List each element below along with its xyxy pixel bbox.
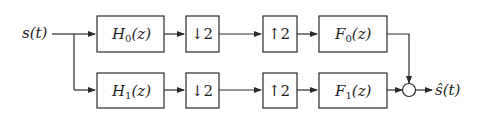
summing-junction-icon (403, 84, 416, 97)
f0-label: F0(z) (334, 25, 372, 44)
input-label: s(t) (22, 24, 48, 42)
upsampler-1-label: ↑2 (268, 82, 290, 100)
f1-label: F1(z) (334, 82, 372, 101)
downsampler-1-label: ↓2 (191, 82, 213, 100)
output-label: ŝ(t) (435, 81, 461, 99)
h0-label: H0(z) (111, 25, 151, 44)
downsampler-0-label: ↓2 (191, 25, 213, 43)
branch-1: H1(z) ↓2 ↑2 F1(z) (97, 73, 402, 108)
input-split-lines (52, 34, 95, 90)
upsampler-0-label: ↑2 (268, 25, 290, 43)
filter-bank-diagram: s(t) H0(z) ↓2 ↑2 F0(z) H1(z) ↓2 ↑2 F1(z) (0, 0, 480, 126)
h1-label: H1(z) (111, 82, 151, 101)
